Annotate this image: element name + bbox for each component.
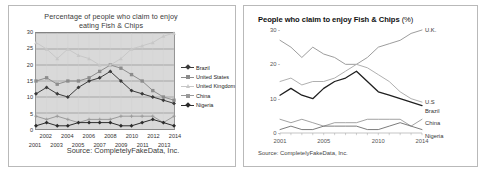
right-series-direct-labels: U.K.U.SBrazilChinaNigeria (422, 30, 478, 140)
legend-item-label: Nigeria (196, 102, 213, 108)
left-x-tick-2006: 2006 (83, 133, 95, 139)
right-x-tick-2005: 2005 (317, 138, 330, 144)
right-y-axis-labels: 0 -10 -20 -30 - (258, 30, 280, 133)
left-chart-title-line2: eating Fish & Chips (79, 21, 143, 30)
original-chart-panel: Percentage of people who claim to enjoy … (8, 5, 236, 167)
legend-item-nigeria[interactable]: Nigeria (181, 101, 235, 110)
series-label-uk: U.K. (425, 27, 436, 33)
legend-marker-icon (181, 63, 194, 72)
series-label-brazil: Brazil (425, 108, 440, 114)
legend-marker-icon (181, 91, 194, 100)
series-label-nigeria: Nigeria (425, 133, 443, 139)
left-x-tick-2014: 2014 (169, 133, 181, 139)
left-x-tick-2008: 2008 (104, 133, 116, 139)
series-label-us: U.S (425, 99, 435, 105)
legend-item-brazil[interactable]: Brazil (181, 63, 235, 72)
legend-marker-icon (181, 73, 194, 82)
legend-item-label: United States (196, 74, 229, 80)
right-y-tick-10: 10 - (270, 96, 280, 102)
right-chart-title: People who claim to enjoy Fish & Chips (… (258, 15, 413, 24)
left-y-tick-30: 30 (27, 29, 33, 35)
left-plot-area (35, 32, 175, 130)
left-chart-title: Percentage of people who claim to enjoy … (23, 12, 199, 30)
left-chart-svg (36, 33, 174, 129)
legend-item-label: United Kingdom (196, 83, 235, 89)
legend-marker-icon (181, 82, 194, 91)
right-y-tick-20: 20 - (270, 61, 280, 67)
right-plot-area (280, 30, 422, 133)
left-y-tick-5: 5 (30, 111, 33, 117)
screenshot-root: Percentage of people who claim to enjoy … (0, 0, 486, 174)
right-chart-title-text: People who claim to enjoy Fish & Chips (258, 15, 400, 24)
legend-item-china[interactable]: China (181, 91, 235, 100)
redesigned-chart-panel: People who claim to enjoy Fish & Chips (… (243, 5, 478, 167)
right-chart-svg (280, 30, 422, 133)
right-x-tick-2010: 2010 (372, 138, 385, 144)
legend-item-label: China (196, 93, 210, 99)
series-label-china: China (425, 120, 440, 126)
right-chart-source: Source: CompletelyFakeData, Inc. (258, 150, 348, 156)
left-y-tick-10: 10 (27, 94, 33, 100)
left-chart-legend: BrazilUnited StatesUnited KingdomChinaNi… (181, 63, 235, 110)
legend-marker-icon (181, 101, 194, 110)
left-x-tick-2002: 2002 (40, 133, 52, 139)
legend-item-label: Brazil (196, 65, 210, 71)
left-y-tick-20: 20 (27, 62, 33, 68)
left-y-tick-25: 25 (27, 45, 33, 51)
right-chart-title-unit: (%) (402, 15, 414, 24)
legend-item-united-states[interactable]: United States (181, 72, 235, 81)
left-y-axis-labels: 051015202530 (17, 28, 33, 134)
left-chart-title-line1: Percentage of people who claim to enjoy (44, 12, 177, 21)
right-y-tick-0: 0 - (273, 130, 280, 136)
left-x-tick-2004: 2004 (61, 133, 73, 139)
legend-item-united-kingdom[interactable]: United Kingdom (181, 82, 235, 91)
right-x-tick-2001: 2001 (274, 138, 287, 144)
right-y-tick-30: 30 - (270, 27, 280, 33)
left-chart-source: Source: CompletelyFakeData, Inc. (9, 146, 237, 155)
left-x-tick-2012: 2012 (147, 133, 159, 139)
left-x-tick-2010: 2010 (126, 133, 138, 139)
left-y-tick-15: 15 (27, 78, 33, 84)
right-x-axis-labels: 2001200520102014 (280, 136, 428, 146)
